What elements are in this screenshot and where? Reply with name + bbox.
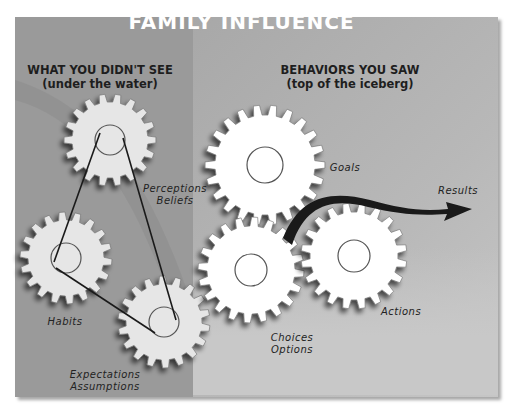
perceptions-label-line2: Beliefs [140, 195, 210, 207]
gear-actions-icon [301, 203, 406, 308]
choices-label-line2: Options [262, 344, 322, 356]
hidden-section-heading: WHAT YOU DIDN'T SEE (under the water) [25, 63, 175, 91]
expectations-label-line2: Assumptions [60, 381, 150, 393]
expectations-label-line1: Expectations [60, 369, 150, 381]
habits-label: Habits [40, 316, 90, 328]
gear-expectations-icon [118, 276, 210, 368]
results-label-text: Results [433, 185, 483, 197]
choices-label-line1: Choices [262, 332, 322, 344]
perceptions-label-line1: Perceptions [140, 183, 210, 195]
diagram-title: FAMILY INFLUENCE [0, 10, 483, 34]
gear-hub [338, 240, 370, 272]
actions-label: Actions [376, 306, 426, 318]
gear-perceptions-icon [64, 94, 156, 185]
choices-label: Choices Options [262, 332, 322, 356]
perceptions-label: Perceptions Beliefs [140, 183, 210, 207]
visible-section-heading: BEHAVIORS YOU SAW (top of the iceberg) [265, 63, 435, 91]
hidden-heading-text: WHAT YOU DIDN'T SEE [25, 63, 175, 77]
actions-label-line1: Actions [376, 306, 426, 318]
hidden-subheading-text: (under the water) [25, 77, 175, 91]
goals-label-line1: Goals [325, 162, 365, 174]
gear-hub [235, 254, 267, 286]
gear-hub [95, 125, 125, 155]
gear-hub [247, 147, 283, 183]
visible-subheading-text: (top of the iceberg) [265, 77, 435, 91]
results-label: Results [433, 185, 483, 197]
expectations-label: Expectations Assumptions [60, 369, 150, 393]
visible-heading-text: BEHAVIORS YOU SAW [265, 63, 435, 77]
goals-label: Goals [325, 162, 365, 174]
gear-habits-icon [20, 212, 112, 304]
habits-label-line1: Habits [40, 316, 90, 328]
